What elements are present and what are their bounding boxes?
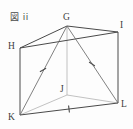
hidden-edges xyxy=(20,26,118,115)
edge-H-I xyxy=(20,32,118,48)
figure-caption: 図 ii xyxy=(10,10,29,23)
vertex-label-L: L xyxy=(121,100,127,110)
edge-G-I xyxy=(67,26,118,32)
vertex-label-K: K xyxy=(8,113,15,123)
edge-J-L xyxy=(67,95,118,103)
vertex-label-J: J xyxy=(60,85,64,95)
tick-markers xyxy=(40,62,95,112)
vertex-label-I: I xyxy=(120,21,123,31)
figure-container: 図 ii G I H J K L xyxy=(0,0,133,129)
solid-edges xyxy=(20,26,118,115)
vertex-label-G: G xyxy=(63,13,70,23)
edge-H-G xyxy=(20,26,67,48)
tick-icon-edge-KL xyxy=(69,106,70,113)
tick-icon-edge-GL xyxy=(89,62,95,66)
vertex-label-H: H xyxy=(8,42,15,52)
edge-G-K xyxy=(20,26,67,115)
